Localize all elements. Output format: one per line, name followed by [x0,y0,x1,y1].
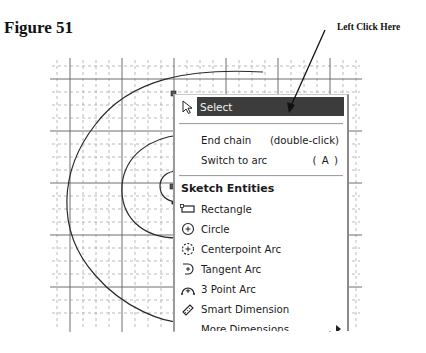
menu-item-label: Centerpoint Arc [201,244,347,255]
pointer-arrow-icon [179,98,197,116]
smart-dimension-icon [179,300,197,318]
menu-item-rectangle[interactable]: Rectangle [175,199,347,219]
menu-item-label: Circle [201,224,347,235]
circle-icon [179,220,197,238]
submenu-arrow-icon [336,325,341,331]
context-menu: Select End chain (double-click) Switch t… [173,94,349,331]
rectangle-icon [179,200,197,218]
menu-item-end-chain[interactable]: End chain (double-click) [175,130,347,150]
centerpoint-arc-icon [179,240,197,258]
menu-item-label: More Dimensions [201,324,347,332]
menu-item-label: 3 Point Arc [201,284,347,295]
menu-item-switch-to-arc[interactable]: Switch to arc ( A ) [175,150,347,170]
menu-item-shortcut: ( A ) [313,155,339,166]
menu-item-select-label[interactable]: Select [197,97,344,116]
menu-item-smart-dimension[interactable]: Smart Dimension [175,299,347,319]
menu-separator [179,175,343,177]
tangent-arc-icon [179,260,197,278]
menu-item-more-dimensions[interactable]: More Dimensions [175,319,347,331]
menu-group-heading: Sketch Entities [181,182,274,195]
three-point-arc-icon [179,280,197,298]
menu-item-circle[interactable]: Circle [175,219,347,239]
menu-item-label: Tangent Arc [201,264,347,275]
menu-item-label: End chain [201,135,270,146]
menu-item-3-point-arc[interactable]: 3 Point Arc [175,279,347,299]
menu-item-label: Rectangle [201,204,347,215]
menu-item-shortcut: (double-click) [270,135,339,146]
menu-item-centerpoint-arc[interactable]: Centerpoint Arc [175,239,347,259]
menu-item-tangent-arc[interactable]: Tangent Arc [175,259,347,279]
menu-item-label: Smart Dimension [201,304,347,315]
menu-separator [179,123,343,125]
menu-item-label: Switch to arc [201,155,313,166]
